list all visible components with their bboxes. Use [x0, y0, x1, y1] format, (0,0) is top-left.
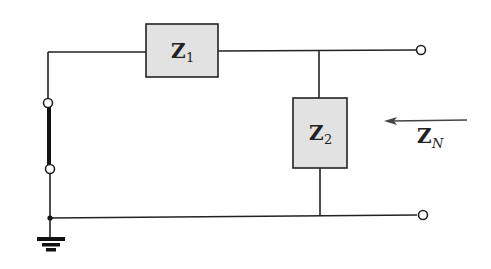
zn-label: Z: [417, 124, 432, 148]
zn-label-group: Z N: [417, 124, 444, 151]
zn-subscript: N: [431, 136, 444, 151]
circuit-diagram: Z 1 Z 2 Z N: [0, 0, 491, 269]
left-terminal-bottom: [46, 165, 55, 174]
output-terminal-bottom: [419, 211, 428, 220]
output-terminal-top: [417, 46, 426, 55]
z2-label: Z: [309, 121, 324, 145]
z1-subscript: 1: [186, 50, 194, 65]
top-wire-right: [218, 50, 416, 51]
arrow-shaft: [392, 120, 467, 121]
impedance-z1: Z 1: [146, 24, 218, 77]
bottom-wire: [50, 215, 417, 218]
z2-subscript: 2: [324, 132, 332, 147]
impedance-z2: Z 2: [293, 98, 347, 168]
ground-icon: [37, 218, 65, 252]
left-terminal-top: [44, 99, 53, 108]
z1-label: Z: [171, 39, 186, 63]
